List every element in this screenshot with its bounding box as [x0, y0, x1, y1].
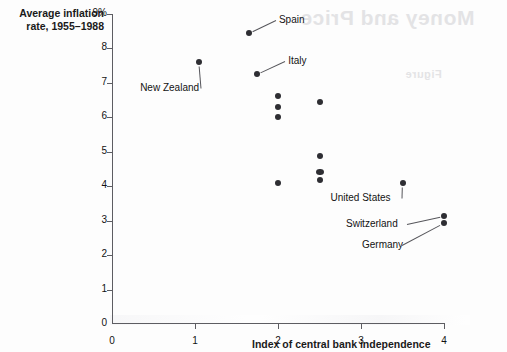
data-point-new-zealand [196, 59, 202, 65]
data-point [317, 177, 323, 183]
leader-line [407, 216, 440, 224]
point-label-spain: Spain [279, 14, 305, 25]
y-axis-tick-label: 9% [93, 7, 107, 18]
data-point [275, 93, 281, 99]
leader-line [252, 20, 276, 32]
data-point [275, 180, 281, 186]
y-axis-line [112, 14, 113, 324]
data-point [317, 153, 323, 159]
x-axis-tick-label: 0 [109, 335, 115, 346]
data-point [275, 114, 281, 120]
point-label-switzerland: Switzerland [346, 218, 398, 229]
leader-line [402, 188, 403, 199]
y-axis-title-line-1: Average inflation [19, 7, 104, 19]
y-axis-tick-mark [107, 255, 113, 256]
x-axis-tick-label: 2 [275, 335, 281, 346]
y-axis-tick-label: 4 [101, 179, 107, 190]
data-point-united-states [400, 180, 406, 186]
y-axis-tick-label: 7 [101, 76, 107, 87]
y-axis-tick-mark [107, 14, 113, 15]
x-axis-tick-mark [444, 323, 445, 329]
data-point [317, 99, 323, 105]
y-axis-tick-mark [107, 48, 113, 49]
y-axis-tick-label: 8 [101, 41, 107, 52]
y-axis-tick-mark [107, 186, 113, 187]
y-axis-title: Average inflation rate, 1955–1988 [0, 7, 104, 33]
y-axis-tick-mark [107, 221, 113, 222]
point-label-italy: Italy [288, 55, 306, 66]
inflation-vs-cbi-scatter-figure: Money and Price Figure Average inflation… [0, 0, 507, 352]
x-axis-tick-label: 1 [192, 335, 198, 346]
y-axis-tick-mark [107, 117, 113, 118]
y-axis-tick-label: 3 [101, 214, 107, 225]
y-axis-tick-label: 1 [101, 283, 107, 294]
y-axis-tick-label: 6 [101, 110, 107, 121]
data-point [316, 169, 324, 176]
x-axis-tick-label: 4 [441, 335, 447, 346]
leader-line [402, 225, 441, 246]
plot-area: 123456789%0 01234 SpainNew ZealandItalyU… [112, 14, 444, 324]
data-point-spain [246, 30, 252, 36]
x-axis-tick-mark [361, 323, 362, 329]
x-axis-tick-mark [195, 323, 196, 329]
y-axis-tick-label: 5 [101, 145, 107, 156]
data-point-switzerland [441, 213, 447, 219]
point-label-germany: Germany [362, 239, 403, 250]
data-point [275, 104, 281, 110]
y-axis-tick-label: 0 [101, 317, 107, 328]
x-axis-tick-mark [278, 323, 279, 329]
leader-line [199, 67, 202, 89]
point-label-united-states: United States [331, 192, 391, 203]
y-axis-title-line-2: rate, 1955–1988 [26, 20, 104, 32]
y-axis-tick-mark [107, 152, 113, 153]
x-axis-tick-label: 3 [358, 335, 364, 346]
point-label-new-zealand: New Zealand [140, 82, 199, 93]
data-point-italy [254, 71, 260, 77]
y-axis-tick-mark [107, 290, 113, 291]
y-axis-tick-label: 2 [101, 248, 107, 259]
leader-line [261, 61, 286, 73]
y-axis-tick-mark [107, 83, 113, 84]
data-point-germany [441, 220, 447, 226]
